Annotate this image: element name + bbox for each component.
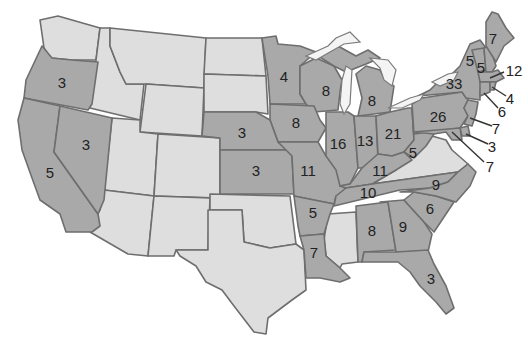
label-vermont: 5: [466, 53, 474, 68]
label-florida: 3: [427, 271, 435, 286]
label-new-jersey: 7: [492, 121, 500, 136]
label-louisiana: 7: [310, 245, 318, 260]
label-delaware: 3: [488, 139, 496, 154]
label-new-hampshire: 5: [477, 60, 485, 75]
label-california: 5: [46, 165, 54, 180]
leader-delaware: [466, 134, 488, 144]
label-north-carolina: 9: [432, 177, 440, 192]
state-wyoming: [140, 84, 204, 136]
label-maine: 7: [489, 31, 497, 46]
state-new-mexico: [148, 196, 210, 256]
label-illinois: 16: [330, 136, 347, 151]
label-iowa: 8: [292, 115, 300, 130]
us-map: [0, 0, 528, 341]
state-south-dakota: [204, 74, 268, 114]
label-ohio: 21: [385, 126, 402, 141]
state-montana: [110, 28, 206, 88]
label-tennessee: 10: [360, 185, 377, 200]
label-michigan: 8: [368, 93, 376, 108]
label-wisconsin: 8: [322, 83, 330, 98]
leader-rhode-island: [492, 87, 506, 96]
label-indiana: 13: [357, 133, 374, 148]
label-nebraska: 3: [238, 125, 246, 140]
label-pennsylvania: 26: [430, 109, 447, 124]
state-florida: [362, 250, 454, 314]
label-new-york: 33: [446, 76, 463, 91]
label-georgia: 9: [399, 219, 407, 234]
label-maryland: 7: [486, 159, 494, 174]
label-minnesota: 4: [280, 69, 288, 84]
label-arkansas: 5: [309, 205, 317, 220]
label-connecticut: 6: [498, 104, 506, 119]
label-massachusetts: 12: [506, 63, 523, 78]
label-kansas: 3: [252, 163, 260, 178]
label-nevada: 3: [82, 137, 90, 152]
label-oregon: 3: [58, 75, 66, 90]
label-south-carolina: 6: [426, 201, 434, 216]
state-colorado: [154, 134, 220, 198]
label-alabama: 8: [368, 223, 376, 238]
label-missouri: 11: [300, 163, 316, 178]
label-west-virginia: 5: [409, 145, 417, 160]
state-north-dakota: [204, 38, 266, 76]
leader-connecticut: [484, 93, 498, 108]
label-kentucky: 11: [372, 163, 388, 178]
lake-michigan: [340, 66, 352, 114]
label-rhode-island: 4: [506, 91, 514, 106]
state-new-jersey: [464, 100, 478, 126]
